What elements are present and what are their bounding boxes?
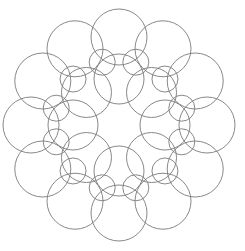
circle-rosette-diagram [0, 0, 245, 251]
background [0, 0, 245, 251]
